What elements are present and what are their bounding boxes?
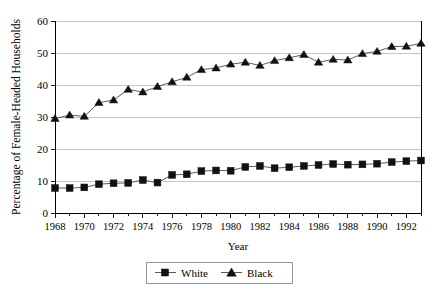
square-marker: [66, 185, 73, 192]
triangle-marker: [329, 55, 337, 62]
square-marker: [183, 171, 190, 178]
y-tick-labels: 0102030405060: [37, 15, 49, 219]
triangle-marker: [417, 39, 425, 46]
square-marker: [227, 167, 234, 174]
square-marker: [139, 177, 146, 184]
chart-legend: White Black: [146, 262, 292, 283]
square-marker: [154, 179, 161, 186]
series-line-black: [55, 43, 421, 118]
x-tick-label-1980: 1980: [220, 221, 241, 232]
x-tick-label-1990: 1990: [367, 221, 388, 232]
square-marker: [110, 180, 117, 187]
x-tick-label-1992: 1992: [396, 221, 417, 232]
x-tick-label-1982: 1982: [249, 221, 270, 232]
square-marker: [169, 172, 176, 179]
square-marker: [271, 165, 278, 172]
x-tick-label-1976: 1976: [162, 221, 183, 232]
y-tick-label-60: 60: [37, 15, 49, 27]
x-tick-label-1970: 1970: [74, 221, 95, 232]
y-tick-label-30: 30: [37, 111, 49, 123]
square-marker: [330, 161, 337, 168]
square-marker: [81, 184, 88, 191]
triangle-marker: [300, 51, 308, 58]
x-tick-label-1968: 1968: [45, 221, 66, 232]
x-tick-labels: 1968197019721974197619781980198219841986…: [45, 221, 417, 232]
triangle-marker: [183, 73, 191, 80]
x-axis-ticks: [55, 213, 421, 218]
x-axis-title: Year: [228, 240, 249, 252]
triangle-marker: [124, 85, 132, 92]
square-marker: [96, 181, 103, 188]
legend-label-black: Black: [247, 267, 273, 279]
y-axis-title: Percentage of Female-Headed Households: [10, 19, 23, 215]
triangle-marker: [109, 96, 117, 103]
x-tick-label-1986: 1986: [308, 221, 329, 232]
y-tick-label-50: 50: [37, 47, 49, 59]
square-marker: [286, 164, 293, 171]
square-marker: [242, 164, 249, 171]
series-black: [51, 39, 425, 121]
square-marker: [300, 163, 307, 170]
series-line-white: [55, 161, 421, 189]
chart-container: 0102030405060 19681970197219741976197819…: [0, 0, 438, 293]
series-white: [52, 157, 425, 191]
x-tick-label-1984: 1984: [279, 221, 301, 232]
legend-label-white: White: [181, 267, 208, 279]
square-marker: [418, 157, 425, 164]
y-tick-label-40: 40: [37, 79, 49, 91]
data-series: [51, 39, 425, 191]
x-tick-label-1972: 1972: [103, 221, 124, 232]
square-marker: [403, 158, 410, 165]
square-marker: [388, 159, 395, 166]
y-tick-label-10: 10: [37, 175, 49, 187]
square-marker: [257, 163, 264, 170]
y-tick-label-20: 20: [37, 143, 49, 155]
x-tick-label-1988: 1988: [337, 221, 358, 232]
square-marker: [374, 160, 381, 167]
square-marker: [198, 168, 205, 175]
square-marker: [213, 167, 220, 174]
triangle-marker: [388, 43, 396, 50]
triangle-marker: [65, 111, 73, 118]
square-marker: [52, 185, 59, 192]
line-chart: 0102030405060 19681970197219741976197819…: [0, 0, 438, 293]
triangle-marker: [241, 58, 249, 65]
x-tick-label-1978: 1978: [191, 221, 212, 232]
square-marker: [359, 161, 366, 168]
square-marker: [344, 161, 351, 168]
square-marker: [162, 269, 169, 276]
y-tick-label-0: 0: [43, 207, 49, 219]
x-tick-label-1974: 1974: [132, 221, 154, 232]
square-marker: [315, 162, 322, 169]
square-marker: [125, 180, 132, 187]
